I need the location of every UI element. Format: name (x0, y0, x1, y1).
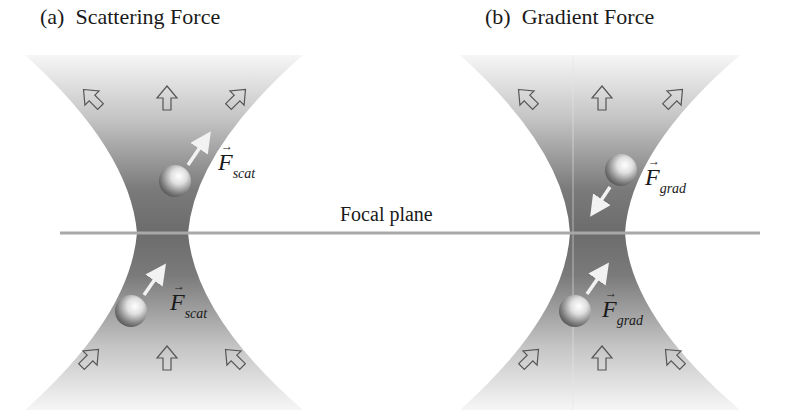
force-label-a-lower: Fscat (170, 290, 207, 321)
panel-a-title: (a) Scattering Force (40, 4, 220, 30)
force-label-a-upper: Fscat (218, 150, 255, 181)
force-label-b-upper: Fgrad (645, 165, 686, 196)
focal-plane-label: Focal plane (340, 203, 433, 226)
panel-b-title: (b) Gradient Force (485, 4, 654, 30)
force-label-b-lower: Fgrad (602, 297, 643, 328)
